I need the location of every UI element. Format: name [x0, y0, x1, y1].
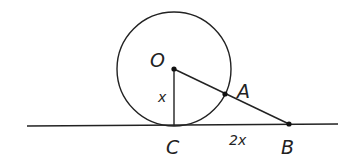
point-a [222, 91, 227, 96]
label-c: C [166, 136, 180, 158]
label-cb-length: 2x [229, 132, 247, 148]
label-o: O [150, 49, 165, 71]
label-a: A [235, 80, 250, 102]
label-oc-length: x [157, 89, 167, 105]
geometry-diagram: O A C B x 2x [0, 0, 349, 165]
segment-ob [174, 69, 289, 124]
point-o [171, 66, 176, 71]
label-b: B [281, 136, 294, 158]
point-b [286, 121, 291, 126]
